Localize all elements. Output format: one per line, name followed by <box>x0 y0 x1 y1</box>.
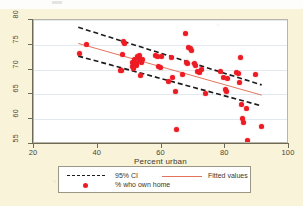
page-top-margin <box>0 0 303 9</box>
x-axis-line <box>32 143 289 144</box>
scatter-point <box>241 120 246 125</box>
legend-marker-ci <box>67 175 105 176</box>
legend-marker-points <box>83 183 88 188</box>
scatter-point <box>236 71 241 76</box>
scatter-point <box>77 51 82 56</box>
chart-legend: 95% CI Fitted values % who own home <box>58 166 251 193</box>
figure-page: 556065707580 20406080100 Percent urban 9… <box>0 0 303 206</box>
y-axis-tick-label: 60 <box>12 109 32 117</box>
scatter-point <box>245 138 250 142</box>
y-axis-tick-label: 75 <box>12 35 32 43</box>
legend-label-points: % who own home <box>115 181 170 188</box>
x-axis-tick-label: 100 <box>277 148 299 157</box>
x-axis-tick-label: 20 <box>22 148 44 157</box>
scan-artifact <box>52 1 62 4</box>
scatter-point <box>193 63 198 68</box>
scatter-point <box>218 69 223 74</box>
scatter-point <box>239 102 244 107</box>
scatter-point <box>138 73 143 78</box>
plot-panel <box>33 19 288 143</box>
scatter-point <box>158 65 163 70</box>
x-axis-tick-label: 60 <box>150 148 172 157</box>
x-axis-tick <box>224 144 225 148</box>
x-axis-tick <box>288 144 289 148</box>
x-axis-tick <box>97 144 98 148</box>
y-axis-tick-label: 65 <box>12 84 32 92</box>
plot-area <box>34 20 287 142</box>
scatter-point <box>84 42 89 47</box>
x-axis-tick-label: 40 <box>86 148 108 157</box>
trend-lines <box>34 20 287 142</box>
x-axis-tick <box>161 144 162 148</box>
scatter-point <box>224 89 229 94</box>
scatter-point <box>225 76 230 81</box>
scatter-point <box>180 72 185 77</box>
y-axis-tick-label: 80 <box>12 10 32 18</box>
fitted-line <box>78 43 261 95</box>
x-axis-title: Percent urban <box>33 157 288 166</box>
legend-label-ci: 95% CI <box>115 172 138 179</box>
y-axis-tick-label: 70 <box>12 60 32 68</box>
scatter-point <box>237 80 242 85</box>
legend-label-fitted: Fitted values <box>208 172 248 179</box>
scatter-point <box>244 106 249 111</box>
legend-marker-fitted <box>162 176 202 177</box>
scatter-point <box>173 89 178 94</box>
y-axis-tick-label: 55 <box>12 134 32 142</box>
x-axis-tick <box>33 144 34 148</box>
scatter-point <box>169 55 174 60</box>
x-axis-tick-label: 80 <box>213 148 235 157</box>
